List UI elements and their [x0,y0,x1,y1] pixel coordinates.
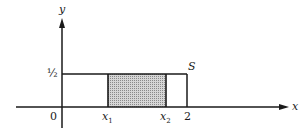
origin-label: 0 [50,111,57,122]
x1-subscript: 1 [108,117,112,125]
shaded-region [108,74,166,107]
x-axis-label: x [292,101,298,112]
y-axis-label: y [59,4,65,15]
y-axis-arrow-icon [59,18,65,28]
diagram-canvas [0,0,302,134]
region-label-s: S [188,61,196,72]
x-tick-2: 2 [184,111,191,122]
x-axis-arrow-icon [279,104,289,110]
x2-subscript: 2 [166,117,170,125]
y-tick-half: ½ [47,68,58,79]
x-tick-x1: x1 [102,111,113,122]
x-tick-x2: x2 [160,111,171,122]
